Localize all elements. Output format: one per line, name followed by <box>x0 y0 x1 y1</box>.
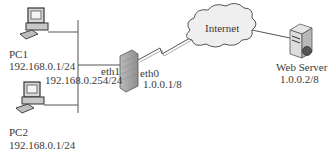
eth1-ip-label: 192.168.0.254/24 <box>45 74 122 86</box>
web-server-name-label: Web Server <box>276 61 327 73</box>
internet-label: Internet <box>205 22 239 34</box>
web-server-ip-label: 1.0.0.2/8 <box>280 73 319 85</box>
pc1-ip-label: 192.168.0.1/24 <box>9 60 75 72</box>
eth0-ip-label: 1.0.0.1/8 <box>143 78 182 90</box>
network-diagram: PC1 192.168.0.1/24 eth1 192.168.0.254/24… <box>0 0 336 160</box>
pc1-name-label: PC1 <box>9 48 28 60</box>
pc2-ip-label: 192.168.0.1/24 <box>9 139 75 151</box>
pc2-name-label: PC2 <box>9 126 28 138</box>
